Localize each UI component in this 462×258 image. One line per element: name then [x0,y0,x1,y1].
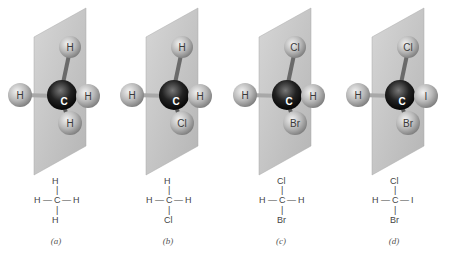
formula-bond-top: | [394,185,396,195]
formula-center: C [392,195,399,205]
formula-left: H [146,195,153,205]
formula-center: C [279,195,286,205]
atom-center-label: C [398,96,405,107]
formula-bond-right: — [287,195,296,205]
formula-bond-bottom: | [394,205,396,215]
formula-center: C [54,195,61,205]
atom-top-label: Cl [403,42,412,53]
atom-bottom-label: Br [290,118,301,129]
panel-a: H H C H H H | H — C — H | H (a) [0,0,112,258]
atom-center-label: C [285,96,292,107]
panel-c: Cl H C H Br Cl | H — C — H | Br (c) [225,0,337,258]
formula-right: H [185,195,192,205]
formula-bond-top: | [168,185,170,195]
panel-d: Cl H C I Br Cl | H — C — I | Br (d) [338,0,450,258]
atom-right-label: H [309,91,316,102]
formula-bond-right: — [400,195,409,205]
panel-caption: (a) [0,236,112,246]
formula-bond-right: — [174,195,183,205]
formula-bond-left: — [381,195,390,205]
formula-left: H [34,195,41,205]
atom-top-label: Cl [290,42,299,53]
atom-center-label: C [172,96,179,107]
panel-caption: (d) [338,236,450,246]
formula-left: H [372,195,379,205]
molecule-model: H H C H H [0,0,112,180]
formula-bond-bottom: | [281,205,283,215]
atom-bottom-label: H [66,118,73,129]
structural-formula: Cl | H — C — H | Br [225,176,337,230]
formula-bond-left: — [155,195,164,205]
formula-left: H [259,195,266,205]
atom-left-label: H [354,90,361,101]
formula-bond-left: — [268,195,277,205]
formula-right: H [298,195,305,205]
formula-right: I [411,195,414,205]
panel-caption: (b) [112,236,224,246]
molecule-model: H H C H Cl [112,0,224,180]
formula-bottom: Cl [164,215,173,225]
molecule-model: Cl H C H Br [225,0,337,180]
atom-left-label: H [241,90,248,101]
formula-bottom: H [52,215,59,225]
atom-bottom-label: Cl [177,118,186,129]
formula-bond-top: | [281,185,283,195]
atom-left-label: H [16,90,23,101]
formula-center: C [166,195,173,205]
formula-bottom: Br [277,215,286,225]
molecule-model: Cl H C I Br [338,0,450,180]
atom-center-label: C [60,96,67,107]
formula-right: H [73,195,80,205]
formula-bond-top: | [56,185,58,195]
structural-formula: H | H — C — H | H [0,176,112,230]
formula-bond-left: — [43,195,52,205]
structural-formula: Cl | H — C — I | Br [338,176,450,230]
formula-bond-right: — [62,195,71,205]
panel-caption: (c) [225,236,337,246]
atom-top-label: H [66,42,73,53]
atom-right-label: H [196,91,203,102]
atom-bottom-label: Br [403,118,414,129]
atom-right-label: I [425,91,428,102]
formula-bond-bottom: | [56,205,58,215]
formula-bond-bottom: | [168,205,170,215]
atom-right-label: H [84,91,91,102]
panel-b: H H C H Cl H | H — C — H | Cl (b) [112,0,224,258]
atom-top-label: H [178,42,185,53]
formula-bottom: Br [390,215,399,225]
structural-formula: H | H — C — H | Cl [112,176,224,230]
atom-left-label: H [128,90,135,101]
